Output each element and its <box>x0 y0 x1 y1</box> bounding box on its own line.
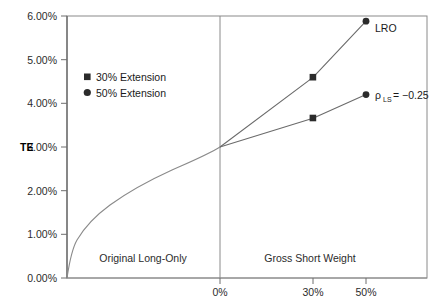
y-tick-label-6: 6.00% <box>27 10 57 22</box>
tracking-error-chart: 6.00% 5.00% 4.00% 3.00% 2.00% 1.00% 0.00… <box>0 0 447 303</box>
region-label-left: Original Long-Only <box>99 252 187 264</box>
y-tick-label-5: 5.00% <box>27 54 57 66</box>
annotation-rho-subscript: LS <box>383 96 392 103</box>
x-tick-label-50: 50% <box>355 286 376 298</box>
annotation-rho-relation: = −0.25 <box>393 89 429 101</box>
y-tick-label-4: 4.00% <box>27 97 57 109</box>
annotation-lro-label: LRO <box>375 22 397 34</box>
legend-marker-circle <box>84 89 91 96</box>
annotation-rho-symbol: ρ <box>375 89 381 101</box>
x-axis-ticks <box>220 278 366 284</box>
y-tick-label-0: 0.00% <box>27 272 57 284</box>
marker-square-upper-30 <box>310 74 317 81</box>
annotation-rho-ls: ρ LS = −0.25 <box>375 89 429 103</box>
plot-area-frame <box>67 16 427 278</box>
x-tick-label-30: 30% <box>302 286 323 298</box>
series-lower-extension-line <box>220 95 366 147</box>
legend-label-50-extension: 50% Extension <box>96 87 166 99</box>
y-axis-title: TE <box>20 141 33 153</box>
y-tick-label-1: 1.00% <box>27 228 57 240</box>
y-axis-ticks <box>61 16 67 278</box>
series-upper-extension-line <box>220 21 366 147</box>
marker-circle-lower-50 <box>363 91 370 98</box>
marker-square-lower-30 <box>310 115 317 122</box>
y-tick-label-2: 2.00% <box>27 185 57 197</box>
chart-container: 6.00% 5.00% 4.00% 3.00% 2.00% 1.00% 0.00… <box>0 0 447 303</box>
region-label-right: Gross Short Weight <box>264 252 356 264</box>
legend-marker-square <box>84 74 91 81</box>
chart-legend: 30% Extension 50% Extension <box>84 71 167 99</box>
marker-circle-upper-50 <box>363 18 370 25</box>
legend-label-30-extension: 30% Extension <box>96 71 166 83</box>
x-tick-label-0: 0% <box>212 286 227 298</box>
